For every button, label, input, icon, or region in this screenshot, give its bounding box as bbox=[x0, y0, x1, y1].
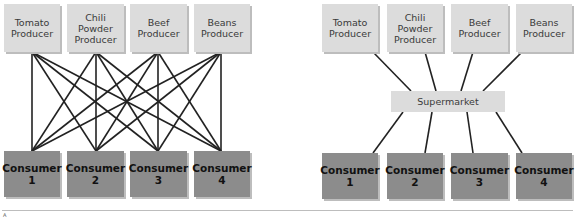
panel-mark: A bbox=[3, 212, 6, 217]
producer-label: Tomato Producer bbox=[11, 17, 53, 39]
consumer-2: Consumer 2 bbox=[67, 151, 124, 197]
producer-beef: Beef Producer bbox=[451, 4, 508, 52]
producer-chili-powder: Chili Powder Producer bbox=[67, 4, 124, 52]
divider-line bbox=[2, 210, 573, 211]
producer-label: Chili Powder Producer bbox=[74, 12, 116, 45]
consumer-label: Consumer 4 bbox=[514, 164, 573, 188]
supermarket-hub: Supermarket bbox=[391, 91, 505, 112]
consumer-4: Consumer 4 bbox=[194, 151, 250, 197]
producer-label: Beans Producer bbox=[523, 17, 565, 39]
producer-label: Tomato Producer bbox=[329, 17, 371, 39]
consumer-2: Consumer 2 bbox=[387, 153, 443, 199]
consumer-1: Consumer 1 bbox=[322, 153, 378, 199]
producer-beans: Beans Producer bbox=[516, 4, 572, 52]
consumer-3: Consumer 3 bbox=[451, 153, 508, 199]
consumer-label: Consumer 3 bbox=[450, 164, 509, 188]
consumer-label: Consumer 4 bbox=[192, 162, 251, 186]
consumer-label: Consumer 3 bbox=[129, 162, 188, 186]
consumer-3: Consumer 3 bbox=[130, 151, 187, 197]
producer-label: Chili Powder Producer bbox=[394, 12, 436, 45]
consumer-label: Consumer 1 bbox=[320, 164, 379, 188]
producer-beans: Beans Producer bbox=[194, 4, 250, 52]
producer-label: Beef Producer bbox=[458, 17, 500, 39]
consumer-1: Consumer 1 bbox=[4, 151, 60, 197]
consumer-4: Consumer 4 bbox=[516, 153, 572, 199]
producer-label: Beans Producer bbox=[201, 17, 243, 39]
supermarket-label: Supermarket bbox=[417, 96, 478, 107]
producer-tomato: Tomato Producer bbox=[4, 4, 60, 52]
consumer-label: Consumer 1 bbox=[2, 162, 61, 186]
producer-label: Beef Producer bbox=[137, 17, 179, 39]
consumer-label: Consumer 2 bbox=[385, 164, 444, 188]
producer-tomato: Tomato Producer bbox=[322, 4, 378, 52]
producer-chili-powder: Chili Powder Producer bbox=[387, 4, 443, 52]
consumer-label: Consumer 2 bbox=[66, 162, 125, 186]
producer-beef: Beef Producer bbox=[130, 4, 187, 52]
